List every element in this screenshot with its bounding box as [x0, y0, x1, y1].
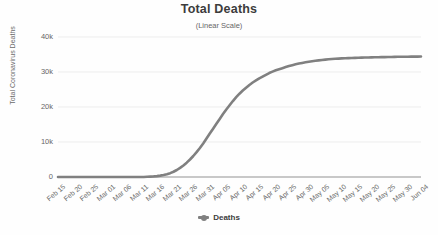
x-axis-tick-labels: Feb 15Feb 20Feb 25Mar 01Mar 06Mar 11Mar …: [0, 0, 438, 235]
chart-legend[interactable]: Deaths: [0, 213, 438, 222]
chart-container: Total Deaths (Linear Scale) Total Corona…: [0, 0, 438, 235]
legend-item-deaths[interactable]: Deaths: [213, 213, 240, 222]
legend-line-marker-icon: [198, 216, 209, 219]
